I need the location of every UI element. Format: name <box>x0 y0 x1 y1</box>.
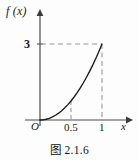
x-axis-arrowhead <box>126 117 133 124</box>
x-tick-label-1: 1 <box>99 122 105 133</box>
origin-label: O <box>31 121 39 132</box>
x-axis-label: x <box>121 121 126 132</box>
plot-canvas <box>0 0 139 140</box>
figure-container: f (x) 3 O 0.5 1 x 图 2.1.6 <box>0 0 139 160</box>
y-tick-label-3: 3 <box>24 38 30 50</box>
y-axis-arrowhead <box>37 9 44 16</box>
figure-caption: 图 2.1.6 <box>0 141 139 157</box>
y-axis-label: f (x) <box>6 5 27 17</box>
x-tick-label-0-5: 0.5 <box>64 122 78 133</box>
